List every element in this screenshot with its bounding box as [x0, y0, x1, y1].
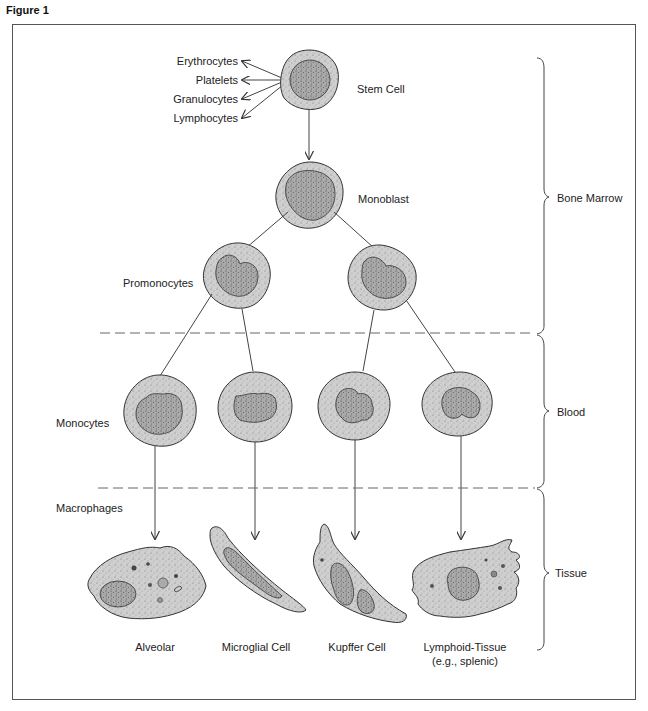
stem-cell-icon [281, 50, 339, 110]
lymphoid-tissue-label: Lymphoid-Tissue [424, 641, 507, 654]
monocytes-label: Monocytes [56, 417, 109, 430]
region-tissue: Tissue [555, 567, 587, 580]
stem-cell-label: Stem Cell [357, 83, 405, 96]
kupffer-cell-label: Kupffer Cell [328, 641, 385, 654]
promonocytes-label: Promonocytes [123, 277, 193, 290]
monocyte-3-icon [318, 372, 390, 440]
hematopoiesis-diagram [0, 0, 648, 711]
lymphoid-tissue-macrophage-icon [412, 540, 520, 618]
output-granulocytes: Granulocytes [173, 93, 238, 106]
output-lymphocytes: Lymphocytes [174, 112, 238, 125]
microglial-cell-label: Microglial Cell [222, 641, 290, 654]
monocyte-1-icon [124, 375, 196, 446]
region-bone-marrow: Bone Marrow [557, 192, 622, 205]
stem-cell-output-arrows [242, 61, 283, 118]
alveolar-label: Alveolar [135, 641, 175, 654]
microglial-cell-icon [210, 527, 306, 612]
output-platelets: Platelets [196, 74, 238, 87]
region-blood: Blood [557, 406, 585, 419]
monoblast-label: Monoblast [358, 193, 409, 206]
promonocyte-to-monocyte-lines [160, 294, 455, 376]
region-braces [537, 58, 549, 650]
monocyte-2-icon [218, 372, 292, 442]
macrophages-label: Macrophages [56, 502, 123, 515]
lymphoid-tissue-sublabel: (e.g., splenic) [432, 655, 498, 668]
monocyte-4-icon [422, 372, 492, 436]
output-erythrocytes: Erythrocytes [177, 55, 238, 68]
promonocyte-left-icon [203, 243, 270, 308]
kupffer-cell-icon [313, 524, 406, 623]
alveolar-macrophage-icon [88, 546, 206, 618]
monoblast-cell-icon [276, 162, 343, 228]
